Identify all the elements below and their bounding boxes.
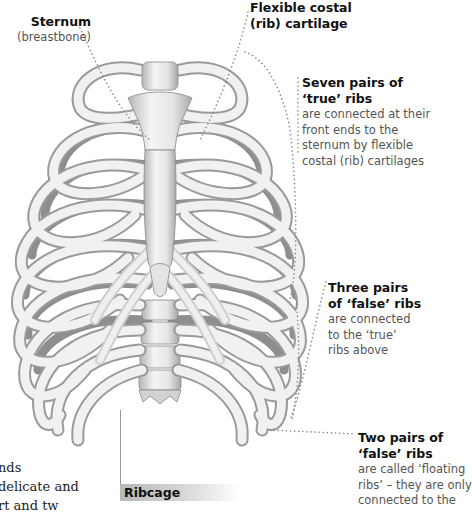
true-ribs-desc-4: costal (rib) cartilages	[302, 154, 430, 170]
true-ribs-desc-1: are connected at their	[302, 107, 430, 123]
two-false-title-2: ‘false’ ribs	[358, 446, 472, 462]
true-ribs-title-2: ‘true’ ribs	[302, 91, 430, 107]
label-three-false-ribs: Three pairs of ‘false’ ribs are connecte…	[328, 280, 421, 359]
sternum-desc: (breastbone)	[17, 30, 91, 46]
body-line-1: nds	[0, 458, 79, 477]
body-text-fragment: nds delicate and rt and tw	[0, 458, 79, 514]
label-true-ribs: Seven pairs of ‘true’ ribs are connected…	[302, 75, 430, 169]
body-line-2: delicate and	[0, 477, 79, 496]
two-false-desc-3: connected to the	[358, 493, 472, 509]
three-false-desc-2: to the ‘true’	[328, 328, 421, 344]
three-false-desc-3: ribs above	[328, 343, 421, 359]
two-false-title-1: Two pairs of	[358, 430, 472, 446]
costal-title-2: (rib) cartilage	[250, 16, 352, 32]
caption-rule	[120, 410, 121, 484]
true-ribs-desc-2: front ends to the	[302, 123, 430, 139]
true-ribs-desc-3: sternum by flexible	[302, 138, 430, 154]
costal-title-1: Flexible costal	[250, 0, 352, 16]
two-false-ribs-leader	[270, 430, 356, 434]
two-false-desc-2: ribs’ – they are only	[358, 478, 472, 494]
three-false-title-1: Three pairs	[328, 280, 421, 296]
true-ribs-title-1: Seven pairs of	[302, 75, 430, 91]
sternum-title: Sternum	[17, 14, 91, 30]
label-sternum: Sternum (breastbone)	[17, 14, 91, 46]
label-two-false-ribs: Two pairs of ‘false’ ribs are called ‘fl…	[358, 430, 472, 509]
figure-caption: Ribcage	[120, 484, 240, 501]
three-false-desc-1: are connected	[328, 312, 421, 328]
figure-caption-label: Ribcage	[124, 485, 180, 500]
three-false-title-2: of ‘false’ ribs	[328, 296, 421, 312]
body-line-3: rt and tw	[0, 496, 79, 514]
two-false-desc-1: are called ‘floating	[358, 462, 472, 478]
label-costal-cartilage: Flexible costal (rib) cartilage	[250, 0, 352, 32]
